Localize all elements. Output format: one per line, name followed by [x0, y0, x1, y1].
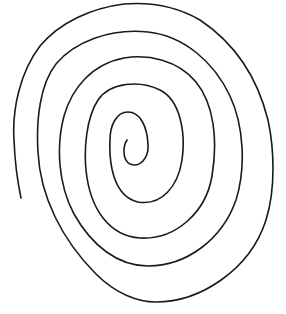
- hand-drawn-spiral: [14, 4, 273, 302]
- spiral-drawing: [0, 0, 286, 314]
- drawing-canvas: [0, 0, 286, 314]
